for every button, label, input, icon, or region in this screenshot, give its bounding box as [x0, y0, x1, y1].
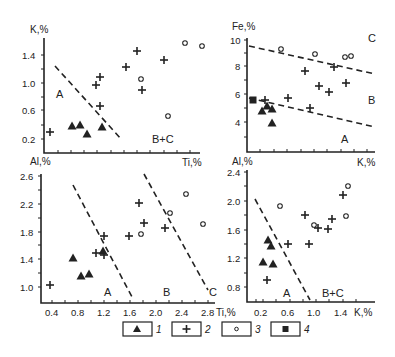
- region-label-bc: B+C: [322, 287, 344, 299]
- legend-label: 1: [156, 324, 162, 335]
- boundary-line-bc: [144, 174, 208, 290]
- y-tick-label: 1.4: [22, 50, 35, 61]
- y-tick-label: 2.4: [227, 167, 240, 178]
- y-tick-label: 1.6: [227, 225, 240, 236]
- series-1-triangles: [68, 121, 107, 138]
- y-tick-label: 1.0: [22, 78, 35, 89]
- series-1-triangles: [69, 247, 108, 280]
- panel-bottom-right: Al,% 2.4 2.0 1.6 1.2 0.8 0.2 0.6 1.0 1.4…: [227, 156, 375, 318]
- y-tick-label: 2.0: [227, 196, 240, 207]
- y-axis-label: Al,%: [30, 156, 51, 167]
- series-3-circles: [139, 192, 206, 237]
- x-tick-label: 1.0: [307, 307, 320, 318]
- y-axis-label: Al,%: [232, 156, 253, 167]
- y-axis-label: Fe,%: [232, 21, 255, 32]
- region-label-a: A: [341, 133, 349, 145]
- y-tick-label: 0.2: [22, 134, 35, 145]
- region-label-a: A: [56, 88, 64, 100]
- y-tick-label: 2.6: [20, 171, 33, 182]
- legend-item-4: 4: [271, 322, 310, 336]
- y-axis-label: K,%: [30, 24, 48, 35]
- region-label-a: A: [104, 286, 112, 298]
- region-label-c: C: [209, 286, 217, 298]
- x-tick-label: 2.0: [149, 307, 162, 318]
- legend-label: 4: [304, 324, 310, 335]
- series-2-plus: [46, 47, 168, 136]
- y-tick-label: 1.4: [20, 254, 33, 265]
- boundary-line-ab: [73, 185, 132, 297]
- x-axis-label: Ti,%: [182, 157, 202, 168]
- y-tick-label: 8: [235, 61, 240, 72]
- series-1-triangles: [258, 102, 277, 127]
- y-tick-label: 6: [235, 89, 240, 100]
- series-3-circles: [279, 47, 354, 60]
- panel-top-right: Fe,% 10 8 6 4 K,% C B A: [230, 21, 376, 168]
- legend-item-1: 1: [123, 322, 162, 336]
- x-tick-label: 2.8: [201, 307, 214, 318]
- plus-marker-icon: [183, 325, 191, 333]
- geochemical-scatter-figure: K,% 1.4 1.0 0.6 0.2 Ti,% A B+C: [0, 0, 395, 357]
- axes: [44, 38, 200, 153]
- square-marker-icon: [283, 326, 289, 332]
- x-tick-label: 1.6: [123, 307, 136, 318]
- region-label-b: B: [163, 286, 170, 298]
- legend-item-2: 2: [172, 322, 211, 336]
- region-label-c: C: [368, 32, 376, 44]
- x-axis-label: K,%: [357, 157, 375, 168]
- triangle-marker-icon: [133, 325, 141, 332]
- boundary-line: [55, 66, 122, 140]
- region-label-bc: B+C: [152, 133, 174, 145]
- x-tick-label: 2.4: [175, 307, 188, 318]
- legend-item-3: 3: [222, 322, 261, 336]
- x-tick-label: 0.8: [71, 307, 84, 318]
- panel-bottom-left: Al,% 2.6 2.2 1.8 1.4 1.0 0.4 0.8 1.2 1.6…: [20, 156, 236, 318]
- y-tick-label: 4: [235, 117, 240, 128]
- series-3-circles: [278, 184, 351, 228]
- legend-label: 3: [255, 324, 261, 335]
- boundary-line-bc: [249, 46, 375, 74]
- y-tick-label: 2.2: [20, 199, 33, 210]
- series-2-plus: [46, 199, 169, 289]
- region-label-a: A: [283, 287, 291, 299]
- x-tick-label: 0.2: [254, 307, 267, 318]
- x-tick-label: 0.4: [45, 307, 58, 318]
- series-3-circles: [139, 41, 205, 119]
- series-1-triangles: [259, 236, 278, 268]
- y-tick-label: 0.6: [22, 105, 35, 116]
- y-tick-label: 0.8: [227, 282, 240, 293]
- x-tick-label: 1.2: [97, 307, 110, 318]
- legend-label: 2: [204, 324, 211, 335]
- x-axis-label: Ti,%: [216, 307, 236, 318]
- y-tick-label: 10: [230, 35, 241, 46]
- series-4-squares: [250, 97, 257, 104]
- y-tick-label: 1.8: [20, 227, 33, 238]
- x-axis-label: K,%: [354, 307, 372, 318]
- panel-top-left: K,% 1.4 1.0 0.6 0.2 Ti,% A B+C: [22, 24, 204, 168]
- axes: [247, 38, 375, 152]
- y-tick-label: 1.2: [227, 253, 240, 264]
- region-label-b: B: [368, 94, 375, 106]
- circle-marker-icon: [235, 327, 239, 331]
- boundary-line: [255, 199, 310, 300]
- series-2-plus: [261, 63, 350, 112]
- y-tick-label: 1.0: [20, 282, 33, 293]
- x-tick-label: 0.6: [281, 307, 294, 318]
- legend: 1 2 3 4: [123, 322, 310, 336]
- x-tick-label: 1.4: [334, 307, 347, 318]
- axes: [41, 174, 215, 303]
